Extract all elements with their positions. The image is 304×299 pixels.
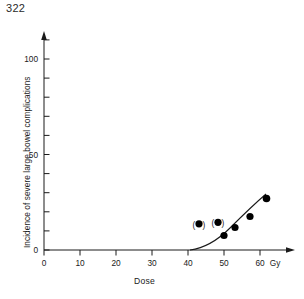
chart-svg: 0 50 100 0 10 20 30 40 50 60 (0, 0, 304, 299)
figure-page: 322 (0, 0, 304, 299)
bracket-left-paren-1: ( (193, 220, 196, 230)
x-tick-label-20: 20 (111, 258, 121, 268)
data-point (220, 232, 227, 239)
bracket-left-paren-2: ( (212, 218, 215, 228)
x-tick-label-50: 50 (219, 258, 229, 268)
x-tick-label-0: 0 (42, 258, 47, 268)
x-tick-label-10: 10 (75, 258, 85, 268)
x-axis-ticks (44, 250, 260, 256)
data-point (246, 213, 253, 220)
x-tick-label-30: 30 (147, 258, 157, 268)
y-tick-label-0: 0 (33, 245, 38, 255)
x-axis-title: Dose (134, 276, 155, 286)
y-axis-title: Incidence of severe large bowel complica… (22, 0, 32, 248)
x-tick-label-40: 40 (183, 258, 193, 268)
data-points (220, 195, 270, 239)
bracket-right-paren-2: ) (222, 218, 225, 228)
x-axis-tick-labels: 0 10 20 30 40 50 60 Gy (42, 258, 281, 268)
data-point (231, 224, 238, 231)
x-tick-label-60: 60 (255, 258, 265, 268)
x-axis-unit-label: Gy (270, 258, 281, 268)
chart-figure: 0 50 100 0 10 20 30 40 50 60 (0, 0, 304, 299)
data-points-bracketed: ( ) ( ) (193, 218, 225, 230)
y-axis (41, 31, 47, 250)
x-axis (44, 247, 295, 253)
y-axis-ticks (44, 40, 50, 250)
data-point (263, 195, 271, 203)
bracket-right-paren-1: ) (203, 220, 206, 230)
